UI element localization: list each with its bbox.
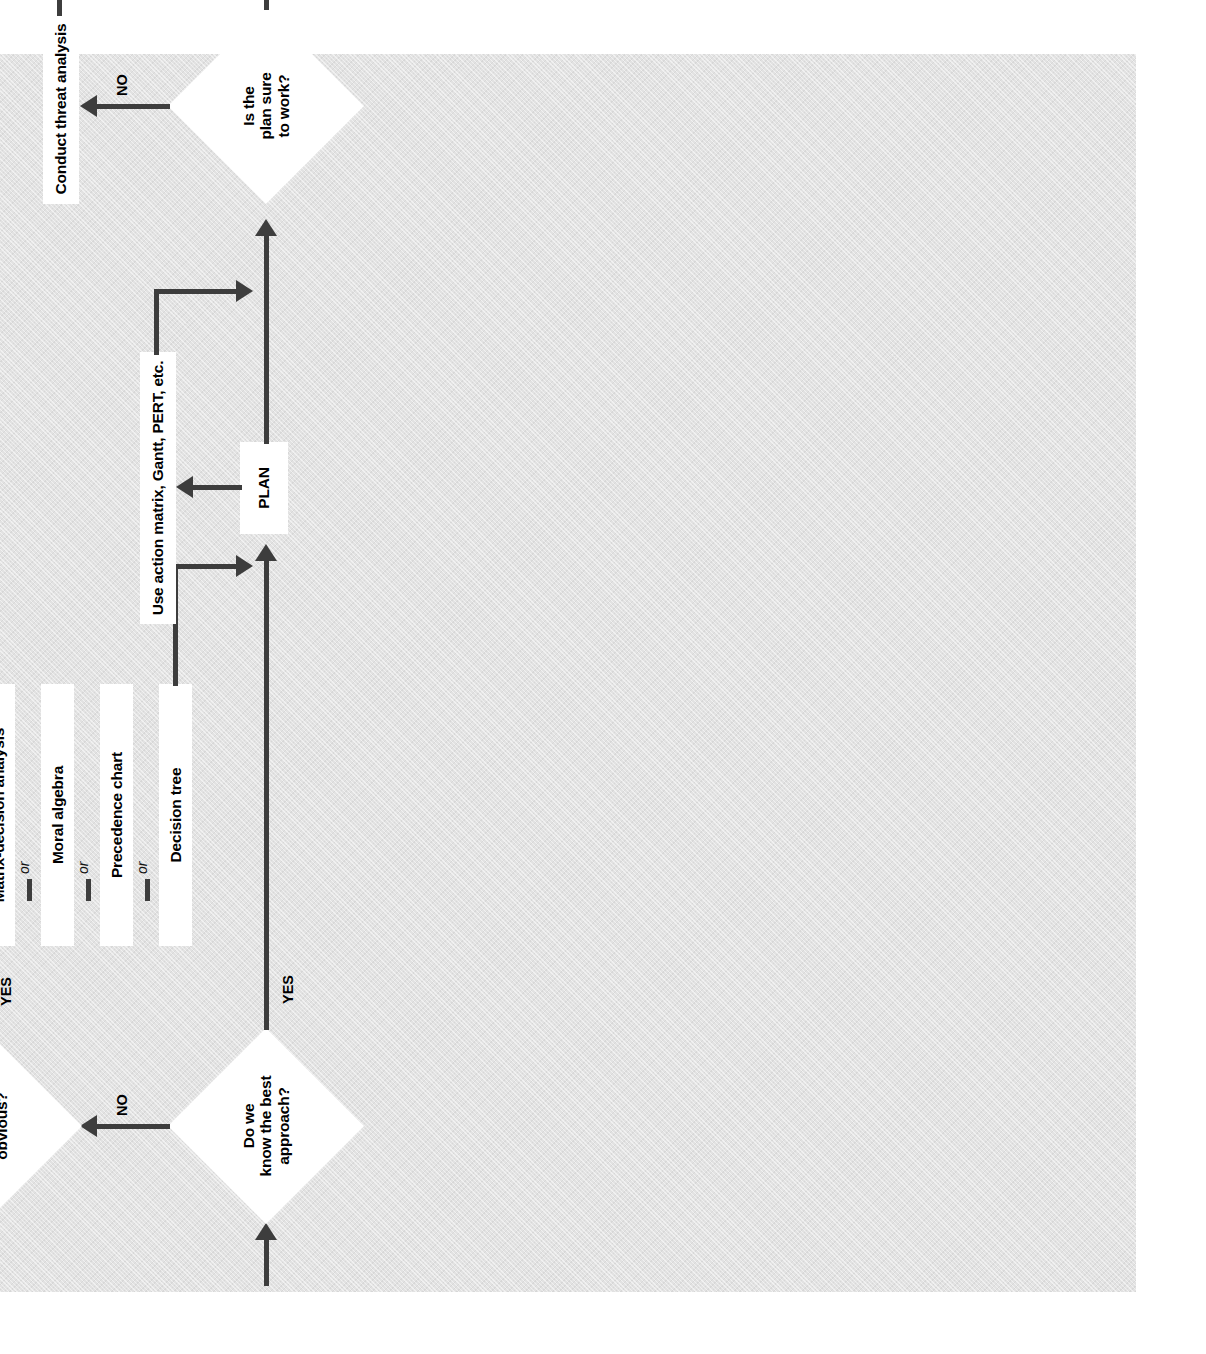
alt-or-dash-3	[145, 879, 150, 901]
decision-know-approach-label: Do we know the best approach?	[168, 1028, 364, 1224]
threat-exit-line	[57, 0, 62, 16]
node-plan[interactable]: PLAN	[240, 442, 288, 534]
decision-alternatives-obvious[interactable]: Are the alternatives obvious?	[0, 1028, 82, 1224]
node-action-matrix[interactable]: Use action matrix, Gantt, PERT, etc.	[140, 352, 176, 624]
label-approach-no: NO	[114, 1094, 130, 1116]
entry-line	[264, 1238, 269, 1286]
node-plan-label: PLAN	[255, 467, 273, 508]
plan-up-arrow	[176, 476, 193, 498]
alt-item-moral-label: Moral algebra	[49, 766, 67, 864]
alt-or-dash-2	[86, 879, 91, 901]
plan-up-line	[186, 485, 242, 490]
node-action-matrix-label: Use action matrix, Gantt, PERT, etc.	[149, 361, 167, 616]
alt-or-label-2: or	[75, 862, 91, 874]
plan-yes-line	[264, 0, 269, 10]
alt-item-matrix-decision[interactable]: Matrix-decision analysis	[0, 684, 15, 946]
plan-to-decision-line	[264, 232, 269, 444]
node-threat-analysis[interactable]: Conduct threat analysis	[43, 14, 79, 204]
decision-alternatives-label: Are the alternatives obvious?	[0, 1028, 82, 1224]
plan-sure-line-3: to work?	[275, 75, 292, 138]
alt-item-precedence-label: Precedence chart	[108, 752, 126, 878]
alt-item-precedence-chart[interactable]: Precedence chart	[100, 684, 133, 946]
entry-arrow	[255, 1223, 277, 1240]
plan-sure-line-1: Is the	[240, 86, 257, 125]
label-alternatives-yes: YES	[0, 977, 14, 1006]
approach-line-1: Do we	[240, 1104, 257, 1149]
plan-no-arrow	[80, 95, 97, 117]
alt-or-dash-1	[27, 879, 32, 901]
node-threat-analysis-label: Conduct threat analysis	[52, 23, 70, 194]
action-matrix-exit-arrow	[236, 280, 253, 302]
page-root: Do we know the best approach? NO YES Are…	[0, 0, 1206, 1354]
plan-to-decision-arrow	[255, 219, 277, 236]
alt-or-label-1: or	[16, 862, 32, 874]
approach-no-arrow	[80, 1115, 97, 1137]
flowchart-canvas: Do we know the best approach? NO YES Are…	[68, 58, 1204, 1296]
approach-line-2: know the best	[257, 1076, 274, 1177]
label-approach-yes: YES	[280, 975, 296, 1004]
plan-sure-line-2: plan sure	[257, 72, 274, 139]
approach-line-3: approach?	[275, 1087, 292, 1164]
decision-plan-sure-label: Is the plan sure to work?	[168, 8, 364, 204]
alt-item-moral-algebra[interactable]: Moral algebra	[41, 684, 74, 946]
rotated-diagram-wrapper: Do we know the best approach? NO YES Are…	[0, 0, 1206, 1354]
plan-no-line	[90, 104, 170, 109]
alt-or-label-3: or	[134, 862, 150, 874]
action-matrix-exit-line	[154, 289, 159, 355]
alt-item-decision-tree[interactable]: Decision tree	[159, 684, 192, 946]
decision-plan-sure[interactable]: Is the plan sure to work?	[168, 8, 364, 204]
approach-no-line	[90, 1124, 170, 1129]
approach-yes-arrow	[255, 544, 277, 561]
alt-item-matrix-label: Matrix-decision analysis	[0, 728, 7, 902]
alt-exit-arrow	[236, 555, 253, 577]
alt-item-decision-tree-label: Decision tree	[167, 768, 185, 863]
decision-know-approach[interactable]: Do we know the best approach?	[168, 1028, 364, 1224]
alternatives-line-3: obvious?	[0, 1092, 10, 1159]
action-matrix-exit-down	[154, 289, 248, 294]
approach-yes-line	[264, 558, 269, 1030]
label-plan-no: NO	[114, 74, 130, 96]
